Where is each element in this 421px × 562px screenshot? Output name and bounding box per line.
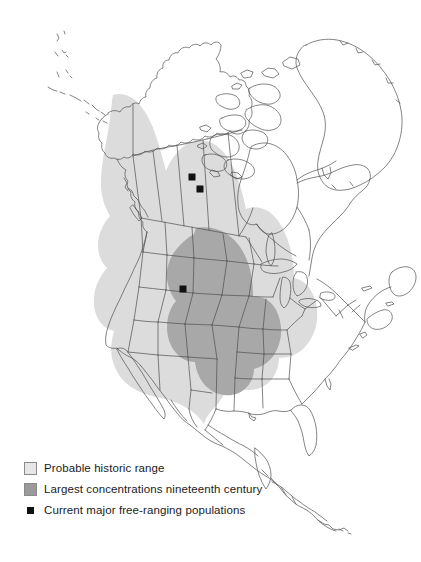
legend-item-current-populations: Current major free-ranging populations <box>24 500 324 521</box>
legend-label-probable-historic-range: Probable historic range <box>44 462 165 475</box>
legend-swatch-light-gray-square <box>24 462 37 475</box>
map-legend: Probable historic range Largest concentr… <box>24 458 324 521</box>
legend-item-probable-historic-range: Probable historic range <box>24 458 324 479</box>
legend-label-current-populations: Current major free-ranging populations <box>44 504 245 517</box>
population-marker <box>197 186 204 193</box>
legend-swatch-black-square-marker <box>24 504 37 517</box>
range-map-figure: Probable historic range Largest concentr… <box>0 0 421 562</box>
legend-label-largest-concentrations: Largest concentrations nineteenth centur… <box>44 483 262 496</box>
black-square-icon <box>27 507 34 514</box>
legend-item-largest-concentrations: Largest concentrations nineteenth centur… <box>24 479 324 500</box>
population-marker <box>189 174 196 181</box>
legend-swatch-medium-gray-square <box>24 483 37 496</box>
population-marker <box>180 286 187 293</box>
